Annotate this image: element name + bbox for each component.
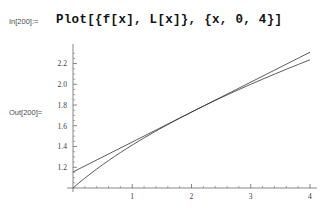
y-tick-label: 1.6: [58, 122, 68, 131]
x-tick-label: 3: [249, 192, 253, 201]
y-tick-label: 1.8: [58, 101, 68, 110]
x-axis-tick-labels: 1234: [130, 192, 312, 201]
input-cell-label: In[200]:=: [9, 17, 38, 26]
mathematica-notebook: In[200]:= Plot[{f[x], L[x]}, {x, 0, 4}] …: [0, 0, 327, 219]
plot-output[interactable]: 1.21.41.61.82.02.2 1234: [0, 30, 327, 210]
plot-svg: 1.21.41.61.82.02.2 1234: [0, 30, 327, 210]
y-axis-tick-labels: 1.21.41.61.82.02.2: [58, 59, 68, 172]
y-tick-label: 2.2: [58, 59, 68, 68]
x-axis-major-ticks: [132, 184, 310, 188]
series-curve-function: [73, 60, 310, 188]
x-tick-label: 4: [308, 192, 312, 201]
y-tick-label: 1.4: [58, 142, 68, 151]
x-tick-label: 1: [130, 192, 134, 201]
x-tick-label: 2: [190, 192, 194, 201]
input-cell-code[interactable]: Plot[{f[x], L[x]}, {x, 0, 4}]: [56, 13, 282, 27]
y-tick-label: 2.0: [58, 80, 68, 89]
y-tick-label: 1.2: [58, 163, 68, 172]
